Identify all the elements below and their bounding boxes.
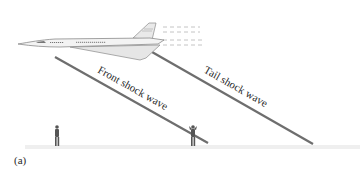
aircraft-wing (70, 45, 160, 60)
supersonic-jet (18, 23, 164, 60)
panel-label: (a) (14, 154, 27, 167)
motion-dashes (163, 27, 205, 45)
tail-shock-wave-line (152, 52, 313, 144)
sonic-boom-diagram: Front shock wave Tail shock wave (a) (0, 0, 360, 170)
observer-left (55, 125, 59, 146)
aircraft-tail-fin (133, 23, 156, 40)
front-shock-wave-label: Front shock wave (96, 63, 170, 112)
